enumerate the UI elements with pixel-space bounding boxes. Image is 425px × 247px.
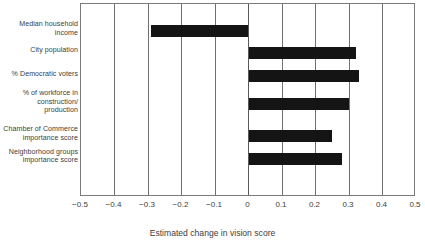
category-label-line: Median household (0, 20, 78, 29)
bar (249, 70, 360, 82)
bar (151, 25, 248, 37)
bar (249, 130, 333, 142)
category-label-line: Chamber of Commerce (0, 125, 78, 134)
category-label-line: importance score (0, 156, 78, 165)
category-label-line: importance score (0, 134, 78, 143)
bar (249, 98, 350, 110)
category-label-line: % of workforce in (0, 89, 78, 98)
category-label-line: income (0, 29, 78, 38)
category-label-line: % Democratic voters (0, 70, 78, 79)
category-label-line: production (0, 106, 78, 115)
category-label-line: Neighborhood groups (0, 148, 78, 157)
gridline (382, 4, 383, 195)
bar (249, 47, 356, 59)
category-label-line: City population (0, 46, 78, 55)
plot-area (80, 3, 415, 196)
category-label-line: construction/ (0, 98, 78, 107)
x-axis-title: Estimated change in vision score (0, 228, 425, 238)
category-label: % Democratic voters (0, 70, 78, 79)
category-label: % of workforce inconstruction/production (0, 89, 78, 115)
category-label: Neighborhood groupsimportance score (0, 148, 78, 165)
category-label: Median householdincome (0, 20, 78, 37)
gridline (114, 4, 115, 195)
x-tick-label: 0.5 (395, 200, 425, 209)
category-label: City population (0, 46, 78, 55)
gridline (148, 4, 149, 195)
horizontal-bar-chart: Median householdincomeCity population% D… (0, 0, 425, 247)
bar (249, 153, 343, 165)
category-label: Chamber of Commerceimportance score (0, 125, 78, 142)
